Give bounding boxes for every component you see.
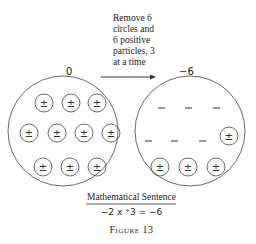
particle-icon: ±	[88, 158, 106, 176]
svg-text:±: ±	[225, 131, 233, 142]
svg-text:±: ±	[107, 128, 115, 139]
svg-text:±: ±	[212, 162, 220, 173]
svg-text:±: ±	[80, 128, 88, 139]
figure-label: Figure 13	[86, 224, 177, 235]
particle-icon: ±	[62, 94, 80, 112]
left-particles: ± ± ± ± ± ± ± ± ± ±	[20, 94, 120, 176]
particle-icon: ±	[102, 124, 120, 142]
svg-text:±: ±	[66, 162, 74, 173]
particle-icon: ±	[220, 127, 238, 145]
particle-icon: ±	[151, 158, 169, 176]
particle-icon: ±	[75, 124, 93, 142]
svg-text:±: ±	[67, 98, 75, 109]
svg-text:±: ±	[93, 162, 101, 173]
svg-text:±: ±	[39, 162, 47, 173]
svg-text:±: ±	[53, 128, 61, 139]
negative-particles	[145, 108, 220, 141]
particle-icon: ±	[20, 124, 38, 142]
svg-text:±: ±	[25, 128, 33, 139]
particle-icon: ±	[48, 124, 66, 142]
arrow-icon	[101, 75, 156, 80]
right-particles: ± ± ± ±	[151, 127, 238, 176]
particle-icon: ±	[207, 158, 225, 176]
svg-text:±: ±	[93, 98, 101, 109]
particle-icon: ±	[88, 94, 106, 112]
particle-icon: ±	[179, 158, 197, 176]
svg-text:±: ±	[156, 162, 164, 173]
svg-text:±: ±	[40, 98, 48, 109]
particle-icon: ±	[35, 94, 53, 112]
caption-heading: Mathematical Sentence	[86, 192, 177, 202]
equation: −2 x ⁺3 = −6	[86, 207, 177, 217]
svg-text:±: ±	[184, 162, 192, 173]
particle-icon: ±	[61, 158, 79, 176]
particle-icon: ±	[34, 158, 52, 176]
